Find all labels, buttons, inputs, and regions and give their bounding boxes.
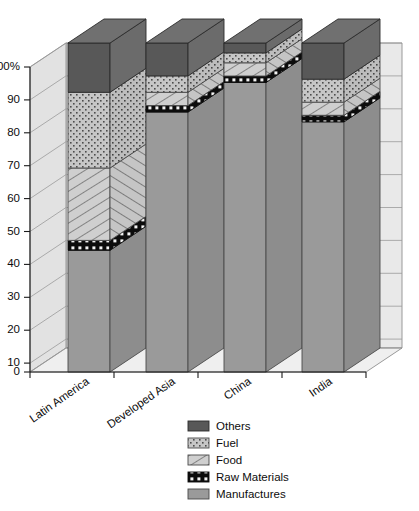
- legend-label-manufactures: Manufactures: [216, 488, 286, 500]
- bar-segment-manufactures: [146, 112, 188, 372]
- bar-segment-others: [68, 43, 110, 92]
- bar-group-developed-asia: [146, 19, 224, 372]
- bar-segment-fuel: [224, 53, 266, 63]
- legend-label-food: Food: [216, 454, 242, 466]
- x-tick-label-china: China: [222, 374, 254, 401]
- y-tick-label-50: 50: [7, 225, 20, 237]
- bar-segment-food: [224, 63, 266, 76]
- y-tick-label-30: 30: [7, 290, 20, 302]
- legend-label-fuel: Fuel: [216, 437, 238, 449]
- bar-segment-manufactures-side: [266, 59, 302, 373]
- legend-item-others: Others: [188, 420, 251, 432]
- bar-segment-others: [146, 43, 188, 76]
- legend-item-food: Food: [188, 454, 242, 466]
- bar-segment-manufactures: [68, 250, 110, 372]
- y-tick-label-80: 80: [7, 126, 20, 138]
- legend-label-raw-materials: Raw Materials: [216, 471, 289, 483]
- bar-segment-fuel: [146, 76, 188, 92]
- left-wall: [30, 43, 66, 372]
- legend-swatch-raw-materials-icon: [188, 472, 209, 482]
- bar-segment-others: [224, 43, 266, 53]
- y-tick-label-70: 70: [7, 159, 20, 171]
- bar-segment-raw-materials: [146, 106, 188, 113]
- bar-segment-raw-materials: [302, 115, 344, 122]
- legend: Others Fuel Food Raw Materials Manufactu…: [188, 420, 289, 500]
- bar-segment-manufactures: [224, 83, 266, 373]
- bar-segment-food: [68, 168, 110, 240]
- bar-segment-manufactures-side: [188, 88, 224, 372]
- y-tick-label-100: 100%: [0, 60, 20, 72]
- legend-item-raw-materials: Raw Materials: [188, 471, 289, 483]
- x-tick-label-latin-america: Latin America: [27, 374, 91, 424]
- y-axis: 100% 90 80 70 60 50 40 30 20 10 0: [0, 60, 30, 377]
- legend-item-manufactures: Manufactures: [188, 488, 286, 500]
- bar-segment-manufactures-side: [110, 226, 146, 372]
- bar-group-china: [224, 19, 302, 372]
- y-tick-label-0: 0: [14, 365, 20, 377]
- legend-label-others: Others: [216, 420, 251, 432]
- legend-swatch-food-icon: [188, 455, 209, 465]
- legend-swatch-fuel-icon: [188, 438, 209, 448]
- legend-swatch-others-icon: [188, 421, 209, 431]
- chart-canvas: 100% 90 80 70 60 50 40 30 20 10 0: [0, 0, 419, 511]
- y-tick-label-60: 60: [7, 192, 20, 204]
- legend-item-fuel: Fuel: [188, 437, 238, 449]
- y-tick-label-20: 20: [7, 323, 20, 335]
- bar-segment-others: [302, 43, 344, 79]
- y-axis-ticks: [24, 67, 30, 372]
- x-tick-label-developed-asia: Developed Asia: [105, 374, 178, 430]
- y-tick-label-40: 40: [7, 257, 20, 269]
- bar-segment-manufactures-side: [344, 98, 380, 372]
- bar-group-india: [302, 19, 380, 372]
- y-tick-label-90: 90: [7, 93, 20, 105]
- bar-group-latin-america: [68, 19, 146, 372]
- bar-segment-manufactures: [302, 122, 344, 372]
- bar-segment-raw-materials: [68, 240, 110, 250]
- bar-segment-fuel: [68, 92, 110, 168]
- legend-swatch-manufactures-icon: [188, 489, 209, 499]
- bar-segment-fuel: [302, 79, 344, 102]
- bar-segment-food: [302, 102, 344, 115]
- x-tick-label-india: India: [307, 374, 335, 398]
- bar-segment-food: [146, 92, 188, 105]
- stacked-bar-chart: 100% 90 80 70 60 50 40 30 20 10 0: [0, 0, 419, 511]
- bar-segment-raw-materials: [224, 76, 266, 83]
